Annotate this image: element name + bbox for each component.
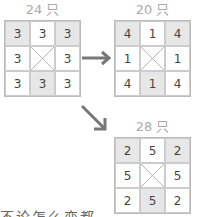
center-cross-cell [140, 163, 165, 188]
grid-cell: 3 [5, 46, 30, 71]
grid-cell: 4 [165, 71, 190, 96]
grid-cell: 3 [5, 71, 30, 96]
grid-cell: 3 [55, 46, 80, 71]
grid-cell: 3 [55, 21, 80, 46]
grid-cell: 5 [115, 163, 140, 188]
center-cross-cell [30, 46, 55, 71]
grid-cell: 3 [55, 71, 80, 96]
cross-icon [141, 47, 164, 70]
grid-cell: 1 [115, 46, 140, 71]
grid-cell: 3 [30, 71, 55, 96]
grid-cell: 2 [165, 188, 190, 213]
grid-cell: 2 [115, 138, 140, 163]
grid-cell: 3 [30, 21, 55, 46]
grid-cell: 5 [165, 163, 190, 188]
diagram-2-grid: 4 1 4 1 1 4 1 4 [114, 20, 191, 97]
caption-text: 不论怎么变都 [0, 206, 96, 217]
diagram-2-label: 20 只 [114, 3, 191, 17]
cross-icon [141, 164, 164, 187]
diagonal-arrow-icon [80, 104, 110, 134]
grid-cell: 4 [115, 71, 140, 96]
grid-cell: 4 [115, 21, 140, 46]
grid-cell: 1 [140, 21, 165, 46]
center-cross-cell [140, 46, 165, 71]
grid-cell: 3 [5, 21, 30, 46]
diagram-3-label: 28 只 [114, 120, 191, 134]
right-arrow-icon [82, 50, 113, 66]
diagram-1-label: 24 只 [4, 3, 81, 17]
diagram-1-grid: 3 3 3 3 3 3 3 3 [4, 20, 81, 97]
grid-cell: 2 [165, 138, 190, 163]
grid-cell: 4 [165, 21, 190, 46]
grid-cell: 5 [140, 188, 165, 213]
grid-cell: 2 [115, 188, 140, 213]
cross-icon [31, 47, 54, 70]
diagram-3-grid: 2 5 2 5 5 2 5 2 [114, 137, 191, 214]
grid-cell: 1 [165, 46, 190, 71]
grid-cell: 5 [140, 138, 165, 163]
grid-cell: 1 [140, 71, 165, 96]
